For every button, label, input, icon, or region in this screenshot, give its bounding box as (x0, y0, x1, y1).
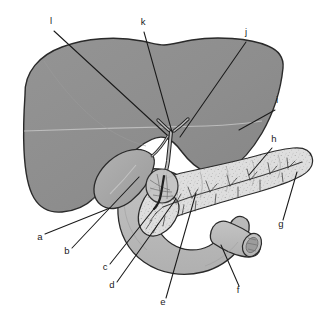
anatomy-diagram-svg: a b c d e f g h i j k l (0, 0, 323, 327)
label-g: g (278, 218, 283, 229)
label-l: l (50, 15, 52, 26)
label-e: e (160, 296, 165, 307)
label-h: h (271, 133, 276, 144)
label-j: j (244, 26, 247, 37)
label-d: d (109, 279, 114, 290)
label-k: k (141, 16, 146, 27)
label-i: i (276, 94, 278, 105)
label-f: f (237, 284, 240, 295)
label-a: a (37, 231, 43, 242)
label-c: c (103, 261, 108, 272)
anatomy-figure: a b c d e f g h i j k l (0, 0, 323, 327)
label-b: b (64, 245, 69, 256)
